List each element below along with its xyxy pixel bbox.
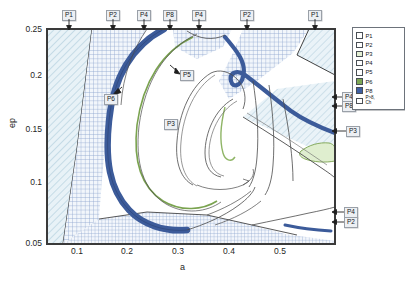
callout-top-p1-right: P1	[308, 10, 322, 21]
legend-label-p3: P3	[366, 51, 373, 57]
callout-interior-p6: P6	[104, 94, 118, 105]
y-axis-title: ep	[7, 118, 17, 128]
y-tick-label: 0.1	[8, 177, 42, 187]
legend-swatch-pgt8-chaos	[356, 98, 363, 105]
legend-label-p4: P4	[366, 60, 373, 66]
legend-label-p6: P6	[366, 79, 373, 85]
legend-item-p2: P2	[356, 40, 402, 49]
y-tick-label: 0.25	[8, 24, 42, 34]
legend-item-pgt8-chaos: P>8, Ch	[356, 95, 402, 106]
legend-swatch-p5	[356, 69, 363, 76]
legend-label-pgt8-chaos: P>8, Ch	[366, 96, 375, 106]
legend-swatch-p2	[356, 42, 363, 49]
x-tick-label: 0.5	[265, 246, 295, 256]
legend-swatch-p1	[356, 32, 363, 39]
legend-item-p3: P3	[356, 49, 402, 58]
legend-item-p6: P6	[356, 77, 402, 86]
legend-swatch-p8	[356, 87, 363, 94]
legend-swatch-p4	[356, 60, 363, 67]
plot-area	[46, 28, 336, 245]
callout-top-p8: P8	[163, 10, 177, 21]
y-tick-label: 0.05	[8, 238, 42, 248]
callout-right-p2-lower: P2	[344, 217, 358, 228]
x-tick-label: 0.4	[214, 246, 244, 256]
legend-label-p1: P1	[366, 33, 373, 39]
callout-top-p4-left: P4	[137, 10, 151, 21]
parameter-space-map	[47, 29, 335, 244]
x-tick-label: 0.3	[163, 246, 193, 256]
callout-top-p4-right: P4	[192, 10, 206, 21]
legend-swatch-p6	[356, 78, 363, 85]
x-axis-title: a	[180, 262, 185, 272]
callout-top-p1-left: P1	[62, 10, 76, 21]
x-tick-label: 0.1	[62, 246, 92, 256]
x-tick-label: 0.2	[112, 246, 142, 256]
legend-label-p2: P2	[366, 42, 373, 48]
legend-item-p4: P4	[356, 59, 402, 68]
legend-item-p1: P1	[356, 31, 402, 40]
legend-label-p8: P8	[366, 88, 373, 94]
callout-right-p3: P3	[346, 126, 360, 137]
callout-top-p2-left: P2	[106, 10, 120, 21]
legend-swatch-p3	[356, 51, 363, 58]
callout-top-p2-right: P2	[240, 10, 254, 21]
callout-interior-p5: P5	[180, 70, 194, 81]
legend-item-p8: P8	[356, 86, 402, 95]
callout-interior-p3: P3	[164, 119, 178, 130]
legend: P1 P2 P3 P4 P5 P6 P8 P>8, Ch	[352, 27, 405, 110]
legend-item-p5: P5	[356, 68, 402, 77]
legend-label-p5: P5	[366, 69, 373, 75]
y-tick-label: 0.2	[8, 70, 42, 80]
